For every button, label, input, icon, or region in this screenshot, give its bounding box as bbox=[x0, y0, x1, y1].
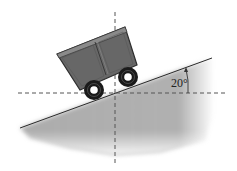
angle-label: 20° bbox=[171, 76, 188, 90]
wheel-rear bbox=[84, 80, 104, 100]
incline-cart-diagram: 20° bbox=[0, 0, 237, 171]
wheel-front bbox=[118, 67, 138, 87]
